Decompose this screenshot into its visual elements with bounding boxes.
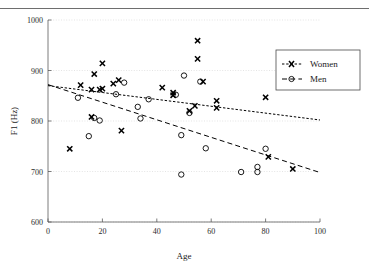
data-point-women [111, 81, 116, 86]
data-point-women [263, 95, 268, 100]
data-point-men [138, 116, 143, 121]
y-axis-tick-label: 700 [31, 168, 43, 177]
data-point-men [97, 118, 102, 123]
data-point-women [78, 83, 83, 88]
women-data-points-group [67, 38, 295, 171]
y-axis-title: F1 (Hz) [9, 107, 19, 135]
data-point-men [181, 73, 186, 78]
x-axis-tick-label: 60 [207, 227, 215, 236]
data-point-men [75, 95, 80, 100]
data-point-women [67, 146, 72, 151]
x-axis-tick-label: 80 [262, 227, 270, 236]
header-divider-rule [0, 8, 369, 9]
y-axis-tick-label: 1000 [27, 16, 43, 25]
y-axis-tick-label: 600 [31, 218, 43, 227]
chart-legend: Women Men [276, 50, 360, 90]
data-point-men [86, 133, 91, 138]
legend-box [276, 50, 360, 90]
legend-women-label: Women [310, 59, 338, 69]
x-axis-title: Age [177, 251, 192, 261]
data-point-women [116, 77, 121, 82]
data-point-women [160, 85, 165, 90]
data-point-men [179, 172, 184, 177]
data-point-women [100, 61, 105, 66]
y-axis-tick-label: 900 [31, 67, 43, 76]
men-data-points-group [75, 73, 268, 177]
data-point-men [203, 146, 208, 151]
trend-line-men [48, 85, 320, 173]
data-point-men [179, 132, 184, 137]
data-point-men [146, 97, 151, 102]
y-axis-tick-label: 800 [31, 117, 43, 126]
data-point-women [195, 38, 200, 43]
x-axis-tick-label: 100 [314, 227, 326, 236]
data-point-men [135, 104, 140, 109]
data-point-women [214, 98, 219, 103]
data-point-women [200, 79, 205, 84]
data-point-men [255, 169, 260, 174]
data-point-women [290, 166, 295, 171]
data-point-women [214, 105, 219, 110]
x-axis-tick-label: 40 [153, 227, 161, 236]
legend-men-label: Men [310, 74, 327, 84]
data-point-women [195, 56, 200, 61]
data-point-men [255, 164, 260, 169]
data-point-men [263, 146, 268, 151]
x-axis-tick-label: 0 [46, 227, 50, 236]
data-point-women [119, 128, 124, 133]
chart-figure: 0204060801001000900800700600 Age F1 (Hz)… [0, 0, 369, 267]
x-axis-tick-label: 20 [98, 227, 106, 236]
trend-lines-group [48, 85, 320, 173]
data-point-men [238, 169, 243, 174]
data-point-men [121, 80, 126, 85]
data-point-women [92, 71, 97, 76]
scatter-plot-canvas: 0204060801001000900800700600 Age F1 (Hz)… [0, 0, 369, 267]
